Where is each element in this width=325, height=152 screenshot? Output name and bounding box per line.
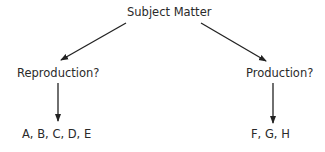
arrow-root-to-production (201, 23, 266, 61)
root-node-label: Subject Matter (127, 7, 211, 19)
reproduction-result-label: A, B, C, D, E (22, 129, 91, 141)
arrow-root-to-reproduction (61, 23, 126, 60)
reproduction-node-label: Reproduction? (17, 68, 99, 80)
production-node-label: Production? (246, 68, 313, 80)
production-result-label: F, G, H (251, 129, 290, 141)
